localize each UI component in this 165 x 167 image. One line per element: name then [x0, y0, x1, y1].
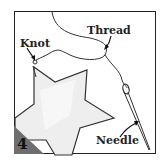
knot-label: Knot: [20, 37, 50, 50]
thread-label: Thread: [87, 24, 131, 37]
step-number: 4: [17, 135, 27, 153]
needle-label: Needle: [96, 134, 139, 147]
